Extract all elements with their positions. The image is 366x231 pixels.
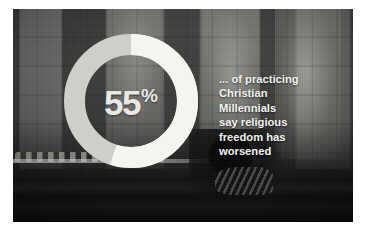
donut-chart: 55 % [53, 23, 209, 179]
caption-line: worsened [219, 144, 343, 158]
caption-line: Christian [219, 86, 343, 100]
caption-line: Millennials [219, 101, 343, 115]
donut-value-number: 55 [104, 85, 140, 120]
donut-value-unit: % [141, 86, 158, 105]
statistic-caption: ... of practicing Christian Millennials … [219, 72, 343, 158]
caption-line: ... of practicing [219, 72, 343, 86]
caption-line: freedom has [219, 130, 343, 144]
donut-center-label: 55 % [53, 23, 209, 179]
donut-value-group: 55 % [104, 85, 158, 120]
infographic-canvas: 55 % ... of practicing Christian Millenn… [0, 0, 366, 231]
caption-line: say religious [219, 115, 343, 129]
